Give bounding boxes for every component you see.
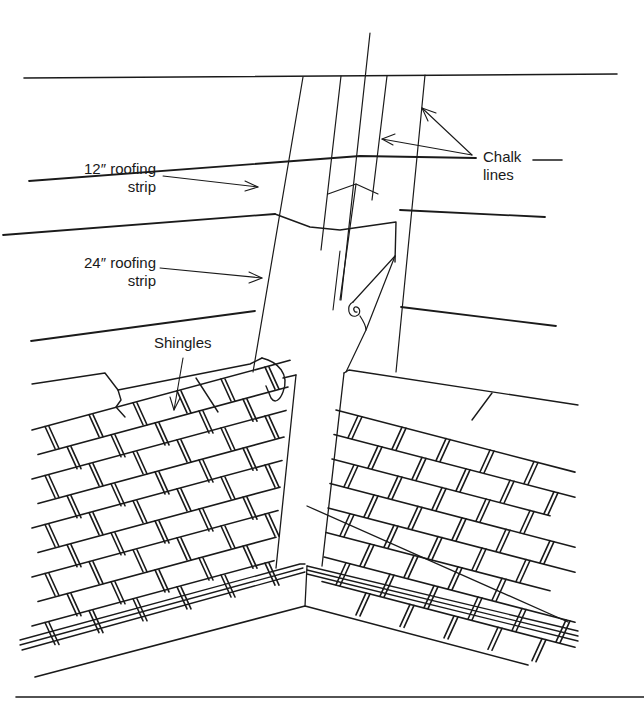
shingle-edge <box>488 627 498 649</box>
shingle-edge <box>32 410 286 479</box>
shingle-edge <box>404 605 414 627</box>
shingle-edge <box>528 462 538 484</box>
chalk-lines-label-line1: Chalk <box>483 148 521 166</box>
roof-valley-diagram: Chalk lines 12″ roofing strip 24″ roofin… <box>0 0 644 711</box>
shingle-edge <box>452 518 462 540</box>
shingle-edge <box>524 511 534 533</box>
shingle-edge <box>480 450 490 472</box>
shingle-edge <box>356 593 366 615</box>
right-shingle-diagonal <box>472 393 492 420</box>
shingle-edge <box>536 640 546 662</box>
right-eave-line-b <box>307 570 578 636</box>
strip-24-label-line2: strip <box>44 272 156 290</box>
shingle-edge <box>344 465 354 487</box>
shingle-edge <box>334 435 575 498</box>
shingle-edge <box>516 559 526 581</box>
shingle-edge <box>388 476 398 498</box>
shingle-edge <box>500 530 510 552</box>
shingle-edge <box>500 480 510 502</box>
shingle-edge <box>336 410 575 472</box>
strip-curl-left <box>353 256 395 302</box>
shingle-edge <box>396 428 406 450</box>
shingle-edge <box>412 457 422 479</box>
strip-12-arrow <box>163 176 258 187</box>
shingle-edge <box>352 417 362 439</box>
shingles-label: Shingles <box>154 334 212 352</box>
shingle-edge <box>408 556 418 578</box>
shingle-edge <box>448 617 458 639</box>
strip-24-fold-crease <box>333 251 340 310</box>
left-roof-valley-edge <box>276 375 296 568</box>
shingle-edge <box>540 541 550 563</box>
strip-12-label-line1: 12″ roofing <box>44 160 156 178</box>
shingle-edge <box>456 519 466 541</box>
shingle-edge <box>328 508 575 572</box>
strip-24-top-fold <box>275 214 396 262</box>
shingle-edge <box>392 477 402 499</box>
shingle-edge <box>364 545 374 567</box>
chalk-lines-label-line2: lines <box>483 166 521 184</box>
shingle-edge <box>428 537 438 559</box>
shingle-edge <box>348 416 358 438</box>
right-roof-top-edge <box>344 370 578 405</box>
shingle-edge <box>456 469 466 491</box>
strip-24-left-edge <box>253 77 303 372</box>
shingle-edge <box>440 440 450 462</box>
strip-curl-right <box>346 256 395 372</box>
shingle-edge <box>472 548 482 570</box>
strip-24-arrow <box>160 268 262 278</box>
chalk-lines-label: Chalk lines <box>483 148 521 184</box>
shingle-edge <box>476 499 486 521</box>
roof-line-3-left <box>3 214 275 235</box>
shingle-edge <box>504 481 514 503</box>
shingle-edge <box>444 616 454 638</box>
left-eave-line-2 <box>20 568 303 645</box>
shingle-edge <box>492 628 502 650</box>
shingle-edge <box>436 439 446 461</box>
strip-12-mid <box>340 184 356 300</box>
shingle-edge <box>544 542 554 564</box>
shingle-edge <box>448 567 458 589</box>
right-eave-line-a <box>307 566 578 631</box>
right-eave-line-c <box>307 574 578 641</box>
left-eave-line-3 <box>22 572 305 650</box>
shingle-edge <box>524 461 534 483</box>
shingle-edge <box>364 495 374 517</box>
shingle-edge <box>360 594 370 616</box>
shingle-edge <box>348 466 358 488</box>
shingle-edge <box>400 604 410 626</box>
shingle-edge <box>460 470 470 492</box>
shingle-edge <box>360 544 370 566</box>
shingle-edge <box>520 560 530 582</box>
strip-curl-roll <box>349 302 366 330</box>
left-shingle-top-course <box>32 373 125 417</box>
right-shingle-field <box>322 410 575 662</box>
strip-24-label: 24″ roofing strip <box>44 254 156 290</box>
shingle-edge <box>532 639 542 661</box>
roof-line-4-left <box>31 311 255 341</box>
roof-line-3-right <box>400 210 545 217</box>
shingle-edge <box>368 446 378 468</box>
strip-12-label-line2: strip <box>44 178 156 196</box>
shingle-edge <box>404 555 414 577</box>
shingle-edge <box>332 459 550 516</box>
strip-12-label: 12″ roofing strip <box>44 160 156 196</box>
shingle-edge <box>432 538 442 560</box>
diagram-canvas <box>0 0 644 711</box>
shingle-edge <box>372 447 382 469</box>
left-eave-line-1 <box>20 564 305 640</box>
chalk-arrow-2 <box>382 139 472 155</box>
roof-line-4-right <box>401 307 556 326</box>
strip-24-right-edge <box>396 75 425 372</box>
shingle-edge <box>520 510 530 532</box>
shingle-edge <box>408 506 418 528</box>
shingle-edge <box>432 488 442 510</box>
shingle-edge <box>480 500 490 522</box>
shingle-edge <box>412 507 422 529</box>
top-line <box>24 74 617 78</box>
shingle-edge <box>548 493 558 515</box>
shingle-edge <box>484 451 494 473</box>
shingle-edge <box>544 492 554 514</box>
shingle-edge <box>436 489 446 511</box>
chalk-arrow-2-head <box>382 134 395 145</box>
